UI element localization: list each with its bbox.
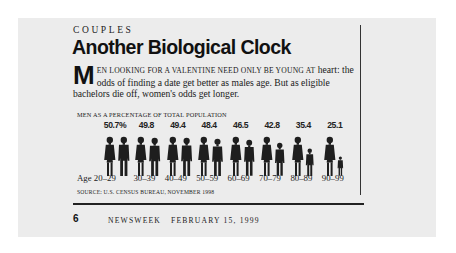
dek-paragraph: MEN LOOKING FOR A VALENTINE NEED ONLY BE… <box>73 64 358 100</box>
chart-title: MEN AS A PERCENTAGE OF TOTAL POPULATION <box>77 111 227 118</box>
pictograph-chart: 50.7%49.849.448.446.542.835.425.1 <box>103 120 358 176</box>
pictograph-group: 25.1 <box>323 120 357 176</box>
headline: Another Biological Clock <box>72 35 291 59</box>
woman-figure-icon <box>323 136 337 176</box>
age-label: 70–79 <box>259 173 281 183</box>
column-rule <box>360 25 361 195</box>
man-figure-icon <box>243 139 255 176</box>
figure-pair <box>134 134 164 176</box>
man-figure-icon <box>305 148 314 176</box>
woman-figure-icon <box>291 136 305 176</box>
woman-figure-icon <box>260 136 274 176</box>
man-figure-icon <box>211 138 224 176</box>
age-label: 80–89 <box>290 173 312 183</box>
folio-line: NEWSWEEKFEBRUARY 15, 1999 <box>108 216 260 225</box>
woman-figure-icon <box>103 136 117 176</box>
figure-pair <box>229 134 259 176</box>
woman-figure-icon <box>134 136 148 176</box>
man-figure-icon <box>148 137 161 176</box>
age-label: 90–99 <box>322 173 344 183</box>
figure-pair <box>291 134 321 176</box>
age-label: 60–69 <box>228 173 250 183</box>
figure-pair <box>323 134 353 176</box>
dek-caps: EN LOOKING FOR A VALENTINE NEED ONLY BE … <box>97 66 316 75</box>
figure-pair <box>197 134 227 176</box>
footer-rule <box>73 203 364 205</box>
source-note: SOURCE: U.S. CENSUS BUREAU, NOVEMBER 199… <box>77 189 214 195</box>
age-label: 50–59 <box>196 173 218 183</box>
age-label: 40–49 <box>165 173 187 183</box>
figure-pair <box>166 134 196 176</box>
woman-figure-icon <box>229 136 243 176</box>
figure-pair <box>103 134 133 176</box>
age-label: Age 20–29 <box>77 173 116 183</box>
issue-date: FEBRUARY 15, 1999 <box>171 216 260 225</box>
drop-cap: M <box>73 65 95 86</box>
woman-figure-icon <box>197 136 211 176</box>
man-figure-icon <box>180 137 193 176</box>
publication-name: NEWSWEEK <box>108 216 161 225</box>
figure-pair <box>260 134 290 176</box>
man-figure-icon <box>274 142 285 176</box>
percent-label: 25.1 <box>317 120 353 130</box>
section-kicker: COUPLES <box>73 25 133 35</box>
page-number: 6 <box>73 213 79 224</box>
man-figure-icon <box>117 136 131 176</box>
age-label: 30–39 <box>133 173 155 183</box>
woman-figure-icon <box>166 136 180 176</box>
